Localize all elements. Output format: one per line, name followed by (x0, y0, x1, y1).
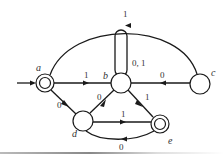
arrowhead-icon (83, 81, 89, 86)
initial-arrow (17, 81, 36, 86)
node-label-b: b (103, 70, 108, 81)
edge-label-b-b: 0, 1 (132, 58, 146, 68)
edge-label-c-a: 1 (123, 9, 128, 19)
node-b: b (103, 70, 131, 93)
edge-label-d-e: 1 (121, 109, 126, 119)
edge-b-e: 1 (128, 90, 153, 117)
node-label-e: e (168, 135, 173, 146)
edge-c-b: 0 (131, 70, 190, 86)
arrowhead-icon (30, 81, 36, 86)
edge-label-a-b: 1 (84, 70, 89, 80)
arrowhead-icon (160, 81, 166, 86)
node-label-a: a (36, 62, 41, 73)
arrowhead-icon (120, 120, 126, 125)
bottom-divider (0, 152, 224, 154)
arrowhead-icon (125, 23, 131, 28)
node-d: d (72, 111, 93, 139)
node-label-c: c (211, 67, 216, 78)
edge-d-b: 0 (90, 90, 114, 113)
node-e: e (151, 115, 173, 146)
edge-a-d: 0 (51, 90, 76, 114)
automaton-diagram: 1 0, 1 1 0 0 0 1 (0, 0, 224, 157)
edge-b-b: 0, 1 (115, 30, 146, 76)
edge-e-d: 0 (86, 131, 154, 152)
edge-d-e: 1 (93, 109, 151, 125)
node-c: c (190, 67, 216, 94)
edge-label-d-b: 0 (97, 92, 102, 102)
edge-label-e-d: 0 (119, 142, 124, 152)
edge-c-a: 1 (50, 9, 197, 75)
node-a: a (36, 62, 54, 92)
edge-label-c-b: 0 (160, 70, 165, 80)
edge-label-b-e: 1 (145, 92, 150, 102)
arrowhead-icon (121, 137, 127, 142)
edge-label-a-d: 0 (57, 100, 62, 110)
